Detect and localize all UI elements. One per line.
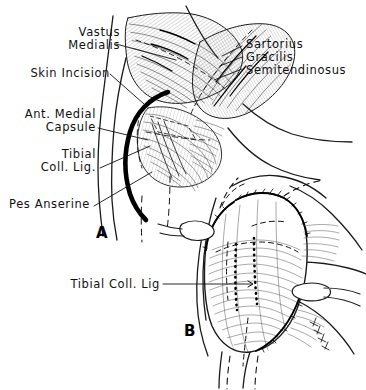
retractor-left [158, 221, 214, 240]
label-gracilis: Gracilis [246, 51, 293, 64]
panel-letter-a: A [96, 224, 108, 242]
label-ant-medial-capsule: Ant. Medial Capsule [10, 108, 96, 133]
label-semitendinosus: Semitendinosus [246, 64, 346, 77]
panel-b-illustration [158, 175, 366, 389]
leader-pes-anserine [94, 172, 152, 206]
label-ant-medial-capsule-line2: Capsule [46, 120, 96, 134]
label-skin-incision: Skin Incision [20, 67, 110, 80]
label-pes-anserine: Pes Anserine [8, 198, 90, 211]
illustration-canvas [0, 0, 366, 390]
label-vastus-medialis: Vastus Medialis [58, 26, 120, 51]
anatomical-figure: Vastus Medialis Skin Incision Ant. Media… [0, 0, 366, 390]
surgical-wound-cavity [203, 189, 310, 352]
label-tibial-coll-lig-b: Tibial Coll. Lig [62, 278, 160, 291]
suture-marks-b [310, 318, 329, 350]
dashed-reference-lines-a [141, 176, 170, 242]
label-tibial-coll-lig-a: Tibial Coll. Lig. [30, 148, 96, 173]
retractor-right [292, 283, 360, 306]
label-tibial-coll-lig-a-line2: Coll. Lig. [41, 160, 96, 174]
panel-a-illustration [98, 6, 352, 242]
panel-letter-b: B [184, 322, 195, 340]
label-sartorius: Sartorius [246, 38, 303, 51]
label-vastus-medialis-line2: Medialis [68, 38, 120, 52]
pes-anserine-region [137, 107, 221, 191]
